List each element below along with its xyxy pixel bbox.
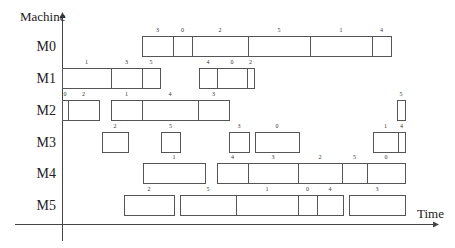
task-label: 5: [150, 59, 153, 66]
task-bar-m5-job-5: [180, 195, 237, 216]
row-label-m2: M2: [16, 103, 56, 119]
task-label: 3: [212, 91, 215, 98]
row-label-m5: M5: [16, 198, 56, 214]
task-label: 3: [238, 123, 241, 130]
task-bar-m4-job-3: [248, 163, 299, 184]
task-bar-m1-job-4: [199, 68, 218, 89]
task-label: 5: [169, 123, 172, 130]
task-label: 0: [181, 27, 184, 34]
task-label: 1: [85, 59, 88, 66]
task-bar-m1-job-2: [247, 68, 255, 89]
task-bar-m0-job-2: [192, 36, 249, 57]
task-bar-m0-job-4: [372, 36, 392, 57]
task-bar-m2-job-2: [68, 100, 100, 121]
task-bar-m2-job-4: [142, 100, 199, 121]
task-bar-m5-job-4: [317, 195, 344, 216]
task-bar-m3-job-3: [229, 132, 250, 153]
task-label: 1: [125, 91, 128, 98]
task-label: 1: [173, 154, 176, 161]
task-bar-m4-job-2: [298, 163, 343, 184]
task-bar-m2-job-1: [111, 100, 143, 121]
row-label-m0: M0: [16, 39, 56, 55]
task-label: 4: [169, 91, 172, 98]
gantt-chart: Machine Time M0M1M2M3M4M5302514135402021…: [0, 0, 455, 248]
task-label: 3: [156, 27, 159, 34]
row-label-m4: M4: [16, 166, 56, 182]
task-label: 3: [272, 154, 275, 161]
task-label: 2: [82, 91, 85, 98]
task-label: 2: [319, 154, 322, 161]
task-bar-m1-job-1: [62, 68, 112, 89]
task-label: 0: [306, 186, 309, 193]
task-label: 2: [249, 59, 252, 66]
task-bar-m2-job-5: [397, 100, 406, 121]
task-bar-m3-job-2: [102, 132, 129, 153]
task-label: 4: [329, 186, 332, 193]
task-label: 4: [380, 27, 383, 34]
task-label: 2: [219, 27, 222, 34]
task-bar-m2-job-3: [198, 100, 230, 121]
task-label: 1: [384, 123, 387, 130]
task-label: 1: [340, 27, 343, 34]
row-label-m3: M3: [16, 135, 56, 151]
task-label: 4: [400, 123, 403, 130]
task-bar-m4-job-5: [342, 163, 368, 184]
y-axis-title: Machine: [20, 9, 65, 25]
row-label-m1: M1: [16, 71, 56, 87]
task-bar-m1-job-0: [217, 68, 248, 89]
task-bar-m0-job-0: [173, 36, 193, 57]
task-bar-m1-job-5: [142, 68, 161, 89]
task-label: 0: [276, 123, 279, 130]
task-label: 0: [64, 91, 67, 98]
task-bar-m5-job-1: [236, 195, 299, 216]
task-bar-m5-job-0: [298, 195, 318, 216]
x-axis: [15, 224, 435, 225]
task-label: 3: [125, 59, 128, 66]
task-bar-m0-job-1: [310, 36, 373, 57]
task-bar-m5-job-3: [349, 195, 406, 216]
task-bar-m3-job-0: [255, 132, 300, 153]
task-label: 1: [266, 186, 269, 193]
task-bar-m1-job-3: [111, 68, 143, 89]
x-axis-arrow-icon: [433, 221, 439, 228]
task-label: 5: [400, 91, 403, 98]
x-axis-title: Time: [417, 206, 444, 222]
task-label: 5: [353, 154, 356, 161]
task-bar-m4-job-0: [367, 163, 406, 184]
task-label: 2: [148, 186, 151, 193]
task-label: 0: [385, 154, 388, 161]
y-axis: [62, 15, 63, 241]
task-label: 3: [376, 186, 379, 193]
task-bar-m5-job-2: [124, 195, 175, 216]
task-label: 5: [207, 186, 210, 193]
task-bar-m4-job-4: [217, 163, 249, 184]
task-label: 2: [114, 123, 117, 130]
task-label: 5: [278, 27, 281, 34]
task-label: 4: [207, 59, 210, 66]
task-bar-m0-job-5: [248, 36, 311, 57]
task-bar-m3-job-5: [161, 132, 181, 153]
task-bar-m0-job-3: [142, 36, 174, 57]
task-label: 0: [231, 59, 234, 66]
task-bar-m3-job-4: [398, 132, 406, 153]
task-label: 4: [231, 154, 234, 161]
task-bar-m3-job-1: [373, 132, 399, 153]
task-bar-m4-job-1: [143, 163, 206, 184]
